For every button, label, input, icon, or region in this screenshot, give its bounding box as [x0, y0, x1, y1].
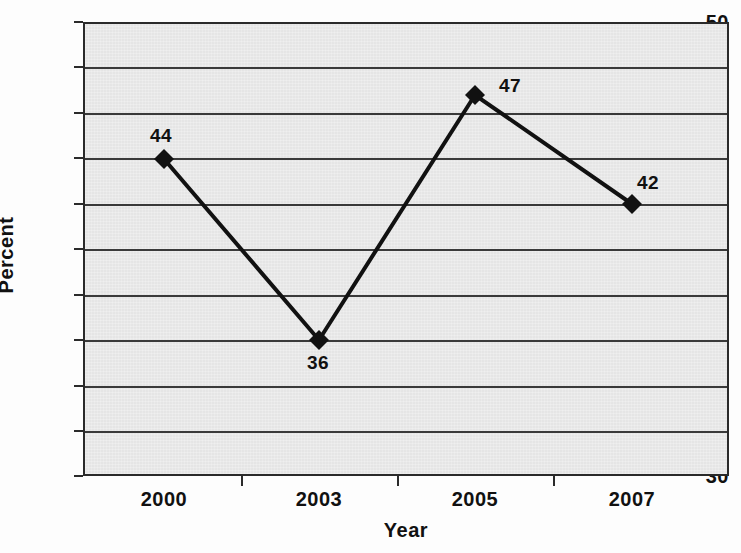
x-tick-mark: [397, 476, 399, 486]
y-tick-mark: [74, 248, 83, 250]
x-tick-label: 2005: [452, 488, 499, 511]
gridline: [85, 204, 727, 206]
gridline: [85, 249, 727, 251]
x-tick-mark: [241, 476, 243, 486]
plot-area: [83, 22, 729, 476]
data-point-label: 44: [150, 125, 172, 147]
y-tick-mark: [74, 112, 83, 114]
y-tick-mark: [74, 294, 83, 296]
gridline: [85, 295, 727, 297]
chart-figure: Percent 50 48 46 44 42 40 38 36 34 32 30: [0, 0, 741, 553]
data-point-label: 47: [499, 75, 521, 97]
y-tick-mark: [74, 385, 83, 387]
y-tick-mark: [74, 21, 83, 23]
y-tick-mark: [74, 475, 83, 477]
data-point-label: 36: [307, 352, 329, 374]
gridline: [85, 340, 727, 342]
data-point-label: 42: [637, 172, 659, 194]
y-tick-mark: [74, 203, 83, 205]
y-tick-mark: [74, 430, 83, 432]
y-tick-mark: [74, 157, 83, 159]
x-tick-label: 2000: [141, 488, 188, 511]
y-tick-mark: [74, 339, 83, 341]
gridline: [85, 113, 727, 115]
y-axis-label: Percent: [0, 217, 18, 294]
x-tick-label: 2007: [609, 488, 656, 511]
x-axis-label: Year: [384, 519, 428, 542]
gridline: [85, 158, 727, 160]
y-tick-mark: [74, 66, 83, 68]
x-tick-label: 2003: [296, 488, 343, 511]
x-tick-mark: [553, 476, 555, 486]
gridline: [85, 431, 727, 433]
gridline: [85, 386, 727, 388]
gridline: [85, 67, 727, 69]
